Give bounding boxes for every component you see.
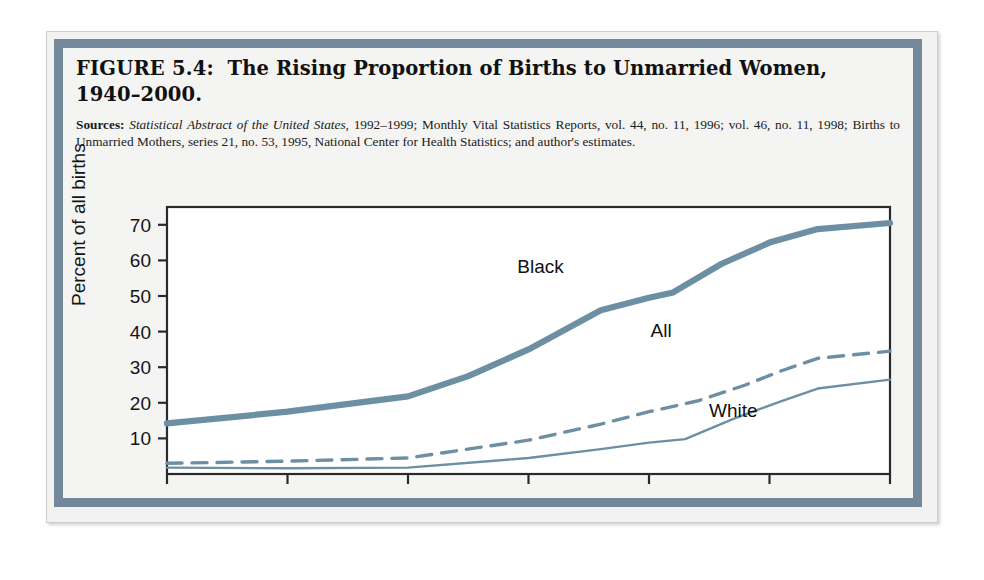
y-tick-label: 30 <box>130 357 151 378</box>
figure-title: FIGURE 5.4: The Rising Proportion of Bir… <box>76 56 906 108</box>
series-label-black: Black <box>517 256 564 277</box>
sources-italic-title: Statistical Abstract of the United State… <box>129 117 349 132</box>
series-label-white: White <box>709 400 758 421</box>
series-label-all: All <box>650 320 671 341</box>
y-tick-label: 60 <box>130 250 151 271</box>
y-tick-label: 40 <box>130 322 151 343</box>
plot-svg: 10203040506070 1940195019601970198019902… <box>76 188 906 488</box>
y-tick-label: 50 <box>130 286 151 307</box>
sources-note: Sources: Statistical Abstract of the Uni… <box>76 117 900 150</box>
figure-page: FIGURE 5.4: The Rising Proportion of Bir… <box>0 0 984 580</box>
y-tick-label: 70 <box>130 215 151 236</box>
y-tick-label: 10 <box>130 428 151 449</box>
figure-number: FIGURE 5.4: <box>76 57 214 80</box>
figure-caption: FIGURE 5.4: The Rising Proportion of Bir… <box>76 56 906 150</box>
chart: Percent of all births 10203040506070 194… <box>76 188 906 488</box>
y-tick-labels: 10203040506070 <box>130 215 151 450</box>
plot-background <box>167 207 890 474</box>
figure-title-line1: The Rising Proportion of Births to Unmar… <box>228 57 828 80</box>
figure-title-line2: 1940–2000. <box>76 83 202 106</box>
y-tick-label: 20 <box>130 393 151 414</box>
